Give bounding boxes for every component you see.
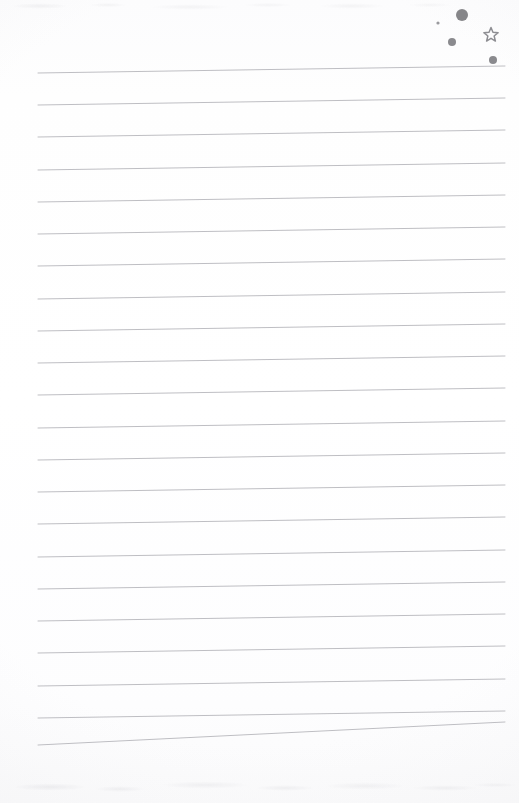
dot-tiny-shape xyxy=(436,21,439,24)
star-outline-shape xyxy=(484,28,498,42)
notebook-page xyxy=(0,0,519,803)
dot-large-shape xyxy=(456,9,468,21)
dot-medium-shape xyxy=(448,38,456,46)
scan-ghosting-bottom xyxy=(0,763,519,803)
doodle-shapes-group xyxy=(436,9,498,64)
writing-area[interactable] xyxy=(38,60,505,760)
scan-ghosting-top xyxy=(0,0,519,14)
